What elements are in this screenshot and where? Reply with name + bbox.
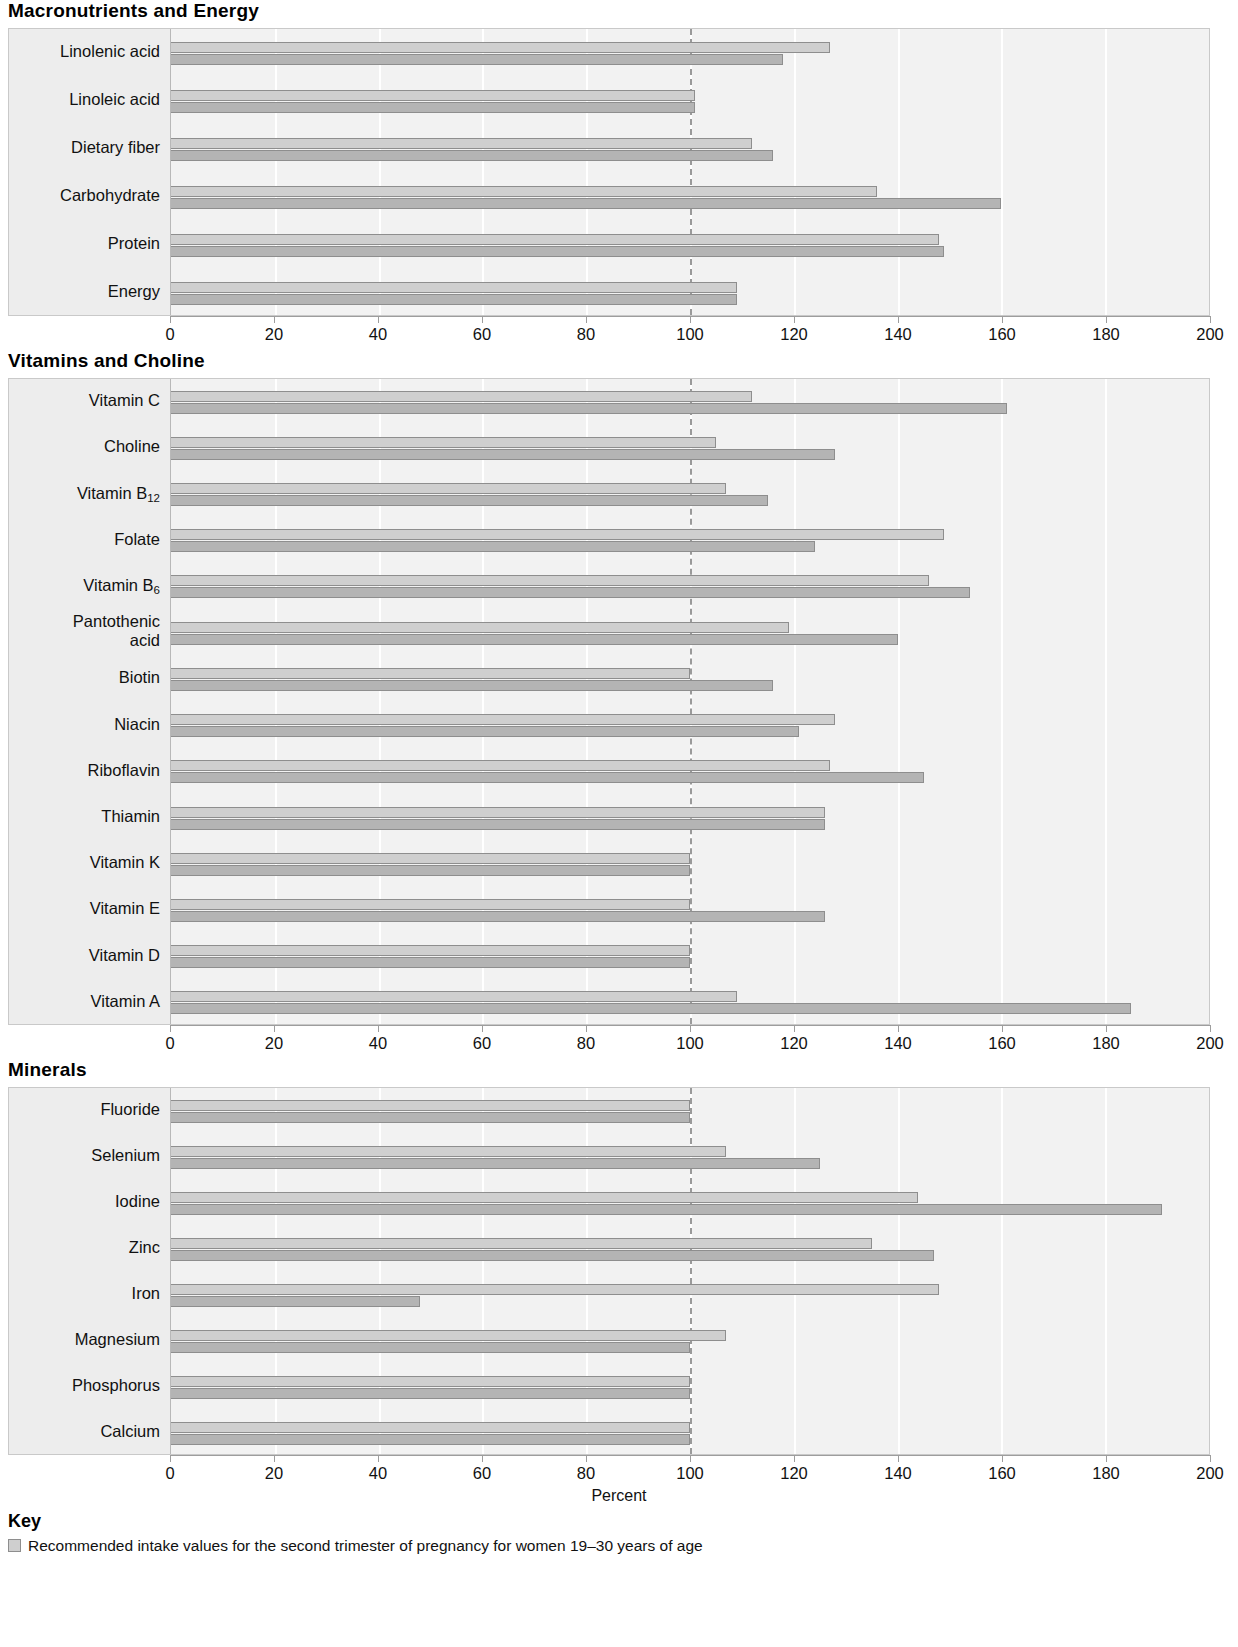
bar-pregnancy <box>171 282 737 293</box>
bar-lactation <box>171 634 898 645</box>
category-label: Iodine <box>115 1192 160 1210</box>
bar-lactation <box>171 726 799 737</box>
chart-panel-vitamins: Vitamin CCholineVitamin B12FolateVitamin… <box>8 378 1210 1025</box>
category-label: Dietary fiber <box>71 138 160 156</box>
category-label: Carbohydrate <box>60 186 160 204</box>
bar-lactation <box>171 294 737 305</box>
axis-tick-label: 120 <box>780 1034 808 1053</box>
category-label: Linolenic acid <box>60 42 160 60</box>
bar-lactation <box>171 1434 690 1445</box>
category-label: Pantothenic acid <box>73 612 160 649</box>
bar-lactation <box>171 772 924 783</box>
bar-pregnancy <box>171 42 830 53</box>
section-title-minerals: Minerals <box>8 1059 1238 1081</box>
axis-tick <box>1210 1455 1211 1462</box>
chart-panel-macronutrients: Linolenic acidLinoleic acidDietary fiber… <box>8 28 1210 316</box>
axis-tick <box>690 1455 691 1462</box>
gridline-20 <box>275 29 277 315</box>
gridline-140 <box>898 29 900 315</box>
category-label-column-vitamins: Vitamin CCholineVitamin B12FolateVitamin… <box>9 379 171 1024</box>
axis-tick <box>170 1025 171 1032</box>
bar-lactation <box>171 541 815 552</box>
axis-tick-label: 100 <box>676 1464 704 1483</box>
axis-tick <box>794 316 795 323</box>
gridline-40 <box>379 29 381 315</box>
gridline-80 <box>586 379 588 1024</box>
category-label: Niacin <box>114 715 160 733</box>
bar-pregnancy <box>171 234 939 245</box>
bar-lactation <box>171 246 944 257</box>
bar-pregnancy <box>171 622 789 633</box>
nutrient-intake-figure: Macronutrients and Energy Linolenic acid… <box>0 0 1238 1647</box>
bar-lactation <box>171 1158 820 1169</box>
axis-tick-label: 200 <box>1196 1464 1224 1483</box>
axis-tick-label: 100 <box>676 1034 704 1053</box>
bar-pregnancy <box>171 991 737 1002</box>
axis-tick-label: 160 <box>988 1464 1016 1483</box>
bar-pregnancy <box>171 483 726 494</box>
axis-tick <box>586 1025 587 1032</box>
bar-pregnancy <box>171 807 825 818</box>
gridline-160 <box>1001 29 1003 315</box>
category-label: Folate <box>114 530 160 548</box>
category-label: Thiamin <box>101 807 160 825</box>
bar-pregnancy <box>171 186 877 197</box>
category-label: Iron <box>132 1284 160 1302</box>
axis-tick-label: 0 <box>165 1464 174 1483</box>
axis-tick <box>1002 316 1003 323</box>
bar-pregnancy <box>171 714 835 725</box>
axis-tick <box>586 1455 587 1462</box>
bar-lactation <box>171 403 1007 414</box>
key-swatch-icon <box>8 1539 21 1552</box>
category-label: Calcium <box>100 1422 160 1440</box>
bar-lactation <box>171 449 835 460</box>
category-label-column-minerals: FluorideSeleniumIodineZincIronMagnesiumP… <box>9 1088 171 1454</box>
axis-tick-label: 80 <box>577 1034 595 1053</box>
bar-pregnancy <box>171 1100 690 1111</box>
bar-pregnancy <box>171 1192 918 1203</box>
axis-tick-label: 40 <box>369 325 387 344</box>
bar-lactation <box>171 198 1001 209</box>
axis-tick-label: 140 <box>884 325 912 344</box>
bar-lactation <box>171 680 773 691</box>
bar-lactation <box>171 911 825 922</box>
plot-area-vitamins <box>171 379 1209 1024</box>
axis-tick <box>1002 1025 1003 1032</box>
axis-tick <box>274 316 275 323</box>
x-axis-title: Percent <box>0 1487 1238 1505</box>
bar-lactation <box>171 1342 690 1353</box>
axis-tick <box>170 316 171 323</box>
bar-lactation <box>171 1388 690 1399</box>
bar-pregnancy <box>171 668 690 679</box>
gridline-120 <box>794 29 796 315</box>
axis-tick <box>1002 1455 1003 1462</box>
axis-tick-label: 200 <box>1196 1034 1224 1053</box>
axis-tick-label: 20 <box>265 1034 283 1053</box>
bar-lactation <box>171 1204 1162 1215</box>
axis-tick <box>378 1455 379 1462</box>
section-title-vitamins: Vitamins and Choline <box>8 350 1238 372</box>
bar-pregnancy <box>171 90 695 101</box>
axis-tick <box>898 1455 899 1462</box>
axis-tick <box>482 1455 483 1462</box>
category-label: Riboflavin <box>88 761 160 779</box>
category-label: Vitamin E <box>90 899 160 917</box>
axis-tick <box>482 1025 483 1032</box>
key-title: Key <box>8 1511 1238 1532</box>
gridline-160 <box>1001 1088 1003 1454</box>
section-title-macronutrients: Macronutrients and Energy <box>8 0 1238 22</box>
axis-tick <box>378 1025 379 1032</box>
x-axis-macronutrients: 020406080100120140160180200 <box>8 316 1210 350</box>
bar-pregnancy <box>171 1330 726 1341</box>
gridline-20 <box>275 1088 277 1454</box>
axis-tick-label: 140 <box>884 1034 912 1053</box>
axis-tick-label: 20 <box>265 1464 283 1483</box>
bar-pregnancy <box>171 575 929 586</box>
gridline-180 <box>1105 29 1107 315</box>
bar-lactation <box>171 54 783 65</box>
category-label: Vitamin B12 <box>77 484 160 502</box>
axis-tick <box>794 1455 795 1462</box>
gridline-80 <box>586 1088 588 1454</box>
bar-lactation <box>171 495 768 506</box>
axis-tick-label: 200 <box>1196 325 1224 344</box>
